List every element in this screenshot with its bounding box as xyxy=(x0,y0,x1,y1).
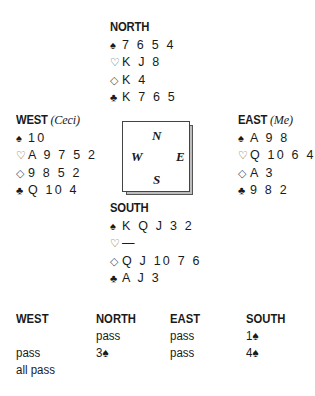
compass-box: N W E S xyxy=(122,121,190,192)
bidding-header-south: SOUTH xyxy=(246,311,285,328)
south-label: SOUTH xyxy=(110,200,148,218)
north-spades: ♠7 6 5 4 xyxy=(110,37,177,55)
south-clubs: ♣A J 3 xyxy=(110,270,202,288)
north-label: NORTH xyxy=(110,19,149,37)
club-icon: ♣ xyxy=(110,270,122,288)
north-hearts: ♡K J 8 xyxy=(110,54,177,72)
compass-south: S xyxy=(153,172,160,188)
bid: 3♠ xyxy=(96,345,137,362)
diamond-icon: ◇ xyxy=(16,165,28,183)
west-clubs: ♣Q 10 4 xyxy=(16,182,97,200)
heart-icon: ♡ xyxy=(110,235,122,253)
spade-icon: ♠ xyxy=(238,130,250,148)
heart-icon: ♡ xyxy=(238,147,250,165)
west-label: WEST(Ceci) xyxy=(16,111,80,130)
club-icon: ♣ xyxy=(238,182,250,200)
bid: all pass xyxy=(16,362,55,379)
spade-icon: ♠ xyxy=(16,130,28,148)
west-diamonds: ◇9 8 5 2 xyxy=(16,165,97,183)
bid: pass xyxy=(170,345,201,362)
south-hearts: ♡— xyxy=(110,235,202,253)
compass-north: N xyxy=(152,128,161,144)
heart-icon: ♡ xyxy=(16,147,28,165)
east-hand: EAST(Me) ♠A 9 8 ♡Q 10 6 4 3 ◇A 3 ♣9 8 2 xyxy=(238,111,315,200)
spade-icon: ♠ xyxy=(110,37,122,55)
bidding-header-west: WEST xyxy=(16,311,48,328)
south-diamonds: ◇Q J 10 7 6 xyxy=(110,253,202,271)
east-hearts: ♡Q 10 6 4 3 xyxy=(238,147,315,165)
west-hand: WEST(Ceci) ♠10 ♡A 9 7 5 2 ◇9 8 5 2 ♣Q 10… xyxy=(16,111,97,200)
diamond-icon: ◇ xyxy=(110,253,122,271)
compass-west: W xyxy=(131,149,143,165)
diamond-icon: ◇ xyxy=(238,165,250,183)
east-clubs: ♣9 8 2 xyxy=(238,182,315,200)
north-clubs: ♣K 7 6 5 xyxy=(110,89,177,107)
bidding-header-north: NORTH xyxy=(96,311,136,328)
bid xyxy=(16,328,55,345)
club-icon: ♣ xyxy=(110,89,122,107)
bid: pass xyxy=(96,328,137,345)
north-hand: NORTH ♠7 6 5 4 ♡K J 8 ◇K 4 ♣K 7 6 5 xyxy=(110,19,177,107)
bid: pass xyxy=(16,345,55,362)
east-player-name: (Me) xyxy=(270,112,293,127)
south-hand: SOUTH ♠K Q J 3 2 ♡— ◇Q J 10 7 6 ♣A J 3 xyxy=(110,200,202,288)
south-spades: ♠K Q J 3 2 xyxy=(110,218,202,236)
east-diamonds: ◇A 3 xyxy=(238,165,315,183)
heart-icon: ♡ xyxy=(110,54,122,72)
west-hearts: ♡A 9 7 5 2 xyxy=(16,147,97,165)
north-diamonds: ◇K 4 xyxy=(110,72,177,90)
compass-east: E xyxy=(176,149,185,165)
east-spades: ♠A 9 8 xyxy=(238,130,315,148)
west-player-name: (Ceci) xyxy=(50,112,79,127)
bid: pass xyxy=(170,328,201,345)
bidding-column-south: SOUTH 1♠ 4♠ xyxy=(246,311,290,362)
bidding-column-west: WEST pass all pass xyxy=(16,311,58,379)
bidding-column-east: EAST pass pass xyxy=(170,311,203,362)
bidding-header-east: EAST xyxy=(170,311,200,328)
club-icon: ♣ xyxy=(16,182,28,200)
east-label: EAST(Me) xyxy=(238,111,293,130)
spade-icon: ♠ xyxy=(110,218,122,236)
bid: 1♠ xyxy=(246,328,286,345)
west-spades: ♠10 xyxy=(16,130,97,148)
diamond-icon: ◇ xyxy=(110,72,122,90)
bidding-column-north: NORTH pass 3♠ xyxy=(96,311,140,362)
bid: 4♠ xyxy=(246,345,286,362)
